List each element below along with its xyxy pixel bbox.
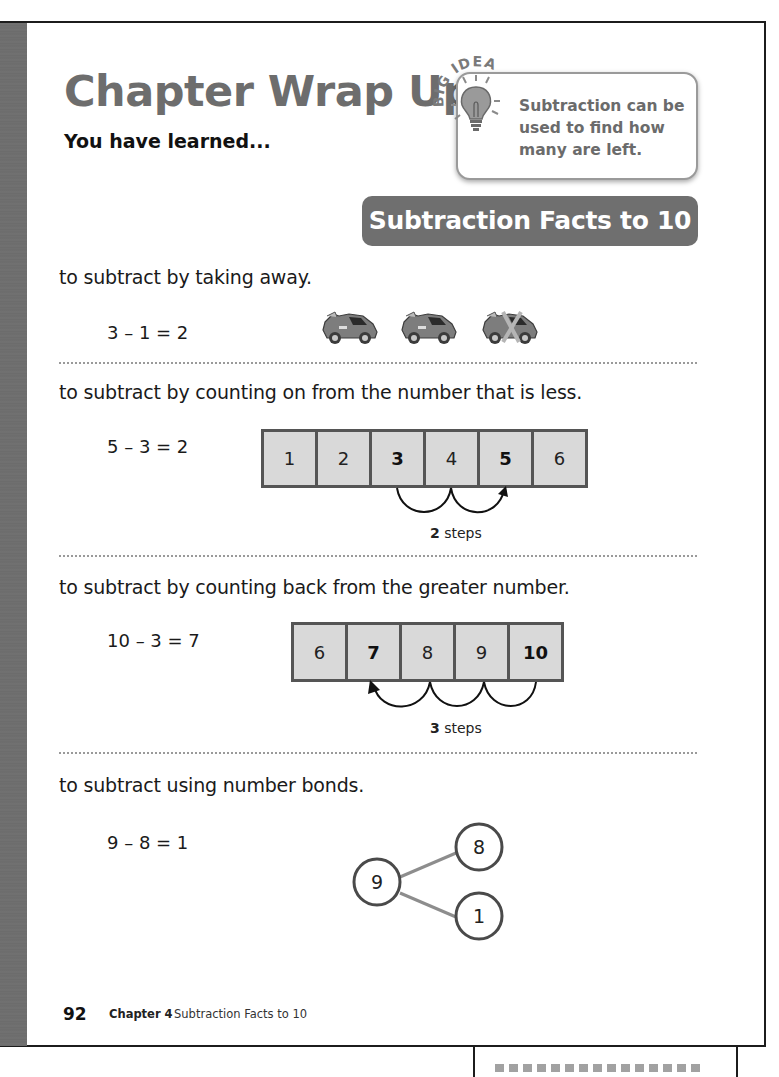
chapter-side-bar <box>0 23 27 1046</box>
number-cell-end: 5 <box>480 432 531 485</box>
toy-car-icon <box>398 308 460 346</box>
lightbulb-icon: BIG IDEA <box>430 55 520 145</box>
clipped-text <box>495 1064 705 1072</box>
section-counting-on-text: to subtract by counting on from the numb… <box>59 381 582 403</box>
number-cell-start: 3 <box>372 432 423 485</box>
number-line-counting-on: 1 2 3 4 5 6 <box>261 429 588 488</box>
page-title: Chapter Wrap Up <box>64 70 473 113</box>
equation-counting-on: 5 – 3 = 2 <box>107 436 188 457</box>
equation-taking-away: 3 – 1 = 2 <box>107 322 188 343</box>
steps-label: 2 steps <box>430 525 482 541</box>
toy-car-icon <box>319 308 381 346</box>
number-line-counting-back: 6 7 8 9 10 <box>291 622 564 682</box>
dotted-divider <box>59 362 697 364</box>
number-cell: 9 <box>456 625 507 679</box>
section-taking-away-text: to subtract by taking away. <box>59 266 312 288</box>
dotted-divider <box>59 752 697 754</box>
number-cell: 8 <box>402 625 453 679</box>
number-cell: 6 <box>294 625 345 679</box>
number-cell-end: 7 <box>348 625 399 679</box>
number-cell-start: 10 <box>510 625 561 679</box>
bond-part-1: 8 <box>473 836 485 858</box>
footer-chapter: Chapter 4 <box>109 1007 173 1021</box>
section-banner: Subtraction Facts to 10 <box>362 196 698 246</box>
section-number-bonds-text: to subtract using number bonds. <box>59 774 364 796</box>
clipped-bottom-tab <box>473 1047 738 1077</box>
page-number: 92 <box>63 1004 87 1024</box>
bond-whole: 9 <box>371 871 383 893</box>
backward-step-arrows-icon <box>362 680 542 720</box>
number-cell: 1 <box>264 432 315 485</box>
number-cell: 2 <box>318 432 369 485</box>
big-idea-text: Subtraction can be used to find how many… <box>519 95 689 161</box>
number-cell: 4 <box>426 432 477 485</box>
crossed-out-toy-car-icon <box>479 308 541 346</box>
section-counting-back-text: to subtract by counting back from the gr… <box>59 576 570 598</box>
bond-part-2: 1 <box>473 905 485 927</box>
number-cell: 6 <box>534 432 585 485</box>
number-bond-diagram: 9 8 1 <box>340 815 510 945</box>
equation-number-bonds: 9 – 8 = 1 <box>107 832 188 853</box>
forward-step-arrows-icon <box>380 486 530 526</box>
steps-label: 3 steps <box>430 720 482 736</box>
dotted-divider <box>59 555 697 557</box>
equation-counting-back: 10 – 3 = 7 <box>107 630 200 651</box>
footer-chapter-title: Subtraction Facts to 10 <box>174 1007 307 1021</box>
page-subtitle: You have learned... <box>64 130 271 152</box>
